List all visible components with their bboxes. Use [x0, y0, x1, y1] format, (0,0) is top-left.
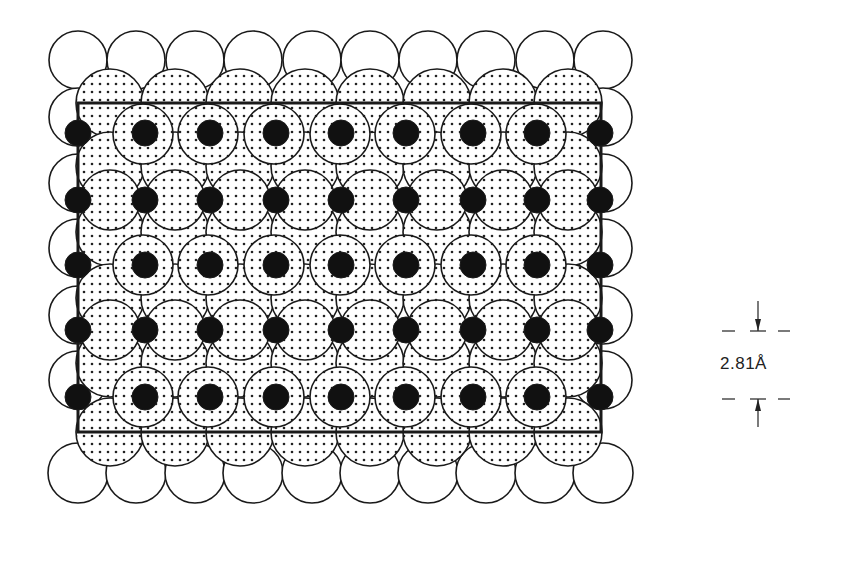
interstitial-atom — [393, 252, 419, 278]
interstitial-atom — [393, 187, 419, 213]
interstitial-atom — [65, 120, 91, 146]
interstitial-atom — [132, 384, 158, 410]
interstitial-atom — [65, 317, 91, 343]
interstitial-atom — [524, 120, 550, 146]
interstitial-atom — [524, 187, 550, 213]
interstitial-atom — [587, 384, 613, 410]
interstitial-atom — [393, 384, 419, 410]
interstitial-atom — [393, 120, 419, 146]
interstitial-atom — [263, 384, 289, 410]
interstitial-atom — [197, 252, 223, 278]
interstitial-atom — [328, 317, 354, 343]
interstitial-atom — [460, 317, 486, 343]
interstitial-atom — [393, 317, 419, 343]
interstitial-atom — [328, 384, 354, 410]
interstitial-atom — [132, 120, 158, 146]
interstitial-atom — [132, 187, 158, 213]
interstitial-atom — [524, 252, 550, 278]
interstitial-atom — [587, 252, 613, 278]
interstitial-atom — [65, 252, 91, 278]
interstitial-atom — [328, 120, 354, 146]
interstitial-atom — [328, 252, 354, 278]
interstitial-atom — [460, 120, 486, 146]
interstitial-atom — [460, 384, 486, 410]
adsorption-structure-diagram — [0, 0, 841, 588]
interstitial-atom — [197, 187, 223, 213]
interstitial-atom — [197, 120, 223, 146]
interstitial-atom — [587, 187, 613, 213]
interstitial-atom — [524, 317, 550, 343]
interstitial-atom — [197, 384, 223, 410]
interstitial-atom — [460, 252, 486, 278]
interstitial-atom — [197, 317, 223, 343]
interstitial-atom — [65, 384, 91, 410]
interstitial-atom — [587, 317, 613, 343]
interstitial-atom — [524, 384, 550, 410]
interstitial-atom — [263, 252, 289, 278]
interstitial-atom — [328, 187, 354, 213]
interstitial-atom — [263, 187, 289, 213]
interstitial-atom — [132, 252, 158, 278]
interstitial-atom — [132, 317, 158, 343]
interstitial-atom — [65, 187, 91, 213]
interstitial-atom — [587, 120, 613, 146]
interstitial-atom — [263, 120, 289, 146]
interstitial-atom — [460, 187, 486, 213]
scale-bar-label: 2.81Å — [720, 354, 767, 374]
interstitial-atom — [263, 317, 289, 343]
